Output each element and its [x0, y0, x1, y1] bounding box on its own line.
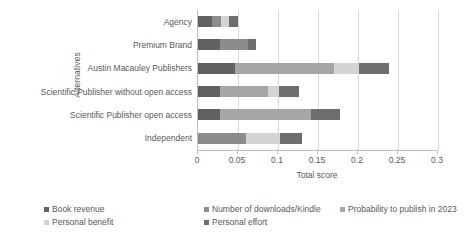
bar-segment[interactable]: [198, 86, 220, 97]
x-tick-label: 0.1: [271, 155, 283, 165]
category-axis-labels: AgencyPremium BrandAustin Macauley Publi…: [30, 10, 194, 150]
bar-segment[interactable]: [198, 16, 212, 27]
bar-segment[interactable]: [221, 16, 229, 27]
x-axis-tick-labels: 00.050.10.150.20.250.3: [197, 155, 437, 167]
x-tick: [397, 150, 398, 154]
bar-segment[interactable]: [198, 109, 220, 120]
legend-swatch-icon: [44, 220, 49, 225]
plot-area: [197, 10, 438, 150]
bar-row: [198, 80, 438, 103]
x-tick: [237, 150, 238, 154]
x-tick-label: 0.2: [351, 155, 363, 165]
bar-segment[interactable]: [279, 86, 299, 97]
legend-row: Personal benefitPersonal effort: [44, 216, 454, 229]
x-tick: [277, 150, 278, 154]
x-tick: [197, 150, 198, 154]
stacked-bar[interactable]: [198, 63, 389, 74]
stacked-bar[interactable]: [198, 133, 302, 144]
bar-segment[interactable]: [198, 133, 246, 144]
legend-swatch-icon: [204, 207, 209, 212]
stacked-bar[interactable]: [198, 86, 299, 97]
category-label: Austin Macauley Publishers: [88, 61, 192, 75]
bar-segment[interactable]: [220, 109, 311, 120]
bar-segment[interactable]: [220, 39, 248, 50]
bar-segment[interactable]: [229, 16, 238, 27]
bar-segment[interactable]: [280, 133, 302, 144]
bar-segment[interactable]: [311, 109, 341, 120]
legend-item[interactable]: Personal benefit: [44, 216, 113, 229]
x-tick: [437, 150, 438, 154]
bar-row: [198, 33, 438, 56]
bar-segment[interactable]: [334, 63, 359, 74]
legend-label: Number of downloads/Kindle: [212, 203, 321, 216]
x-tick-label: 0.05: [229, 155, 246, 165]
x-tick-label: 0.25: [389, 155, 406, 165]
x-tick-label: 0.15: [309, 155, 326, 165]
bar-segment[interactable]: [212, 16, 221, 27]
bar-row: [198, 10, 438, 33]
bar-row: [198, 103, 438, 126]
x-tick-label: 0: [195, 155, 200, 165]
category-label: Independent: [145, 131, 192, 145]
chart-legend: Book revenueNumber of downloads/KindlePr…: [44, 203, 454, 229]
stacked-bar[interactable]: [198, 109, 340, 120]
stacked-bar[interactable]: [198, 16, 238, 27]
bar-segment[interactable]: [235, 63, 334, 74]
bar-row: [198, 57, 438, 80]
x-tick: [317, 150, 318, 154]
gridline: [438, 10, 439, 150]
bar-segment[interactable]: [198, 39, 220, 50]
legend-swatch-icon: [204, 220, 209, 225]
bar-segment[interactable]: [220, 86, 269, 97]
legend-item[interactable]: Probability to publish in 2023: [340, 203, 457, 216]
category-label: Premium Brand: [133, 38, 192, 52]
x-tick-label: 0.3: [431, 155, 443, 165]
legend-item[interactable]: Number of downloads/Kindle: [204, 203, 321, 216]
bar-segment[interactable]: [359, 63, 389, 74]
legend-row: Book revenueNumber of downloads/KindlePr…: [44, 203, 454, 216]
bar-segment[interactable]: [248, 39, 257, 50]
legend-item[interactable]: Personal effort: [204, 216, 267, 229]
bar-segment[interactable]: [246, 133, 280, 144]
x-axis-title: Total score: [197, 170, 437, 180]
bar-segment[interactable]: [198, 63, 235, 74]
bar-segment[interactable]: [268, 86, 278, 97]
legend-label: Personal effort: [212, 216, 267, 229]
category-label: Scientific Publisher open access: [70, 108, 192, 122]
legend-label: Probability to publish in 2023: [348, 203, 457, 216]
x-tick: [357, 150, 358, 154]
legend-swatch-icon: [340, 207, 345, 212]
legend-item[interactable]: Book revenue: [44, 203, 104, 216]
stacked-bar-chart: Alternatives AgencyPremium BrandAustin M…: [0, 0, 467, 248]
stacked-bar[interactable]: [198, 39, 256, 50]
legend-label: Personal benefit: [52, 216, 113, 229]
bar-row: [198, 127, 438, 150]
legend-label: Book revenue: [52, 203, 104, 216]
legend-swatch-icon: [44, 207, 49, 212]
category-label: Agency: [164, 15, 192, 29]
category-label: Scientific Publisher without open access: [41, 85, 192, 99]
